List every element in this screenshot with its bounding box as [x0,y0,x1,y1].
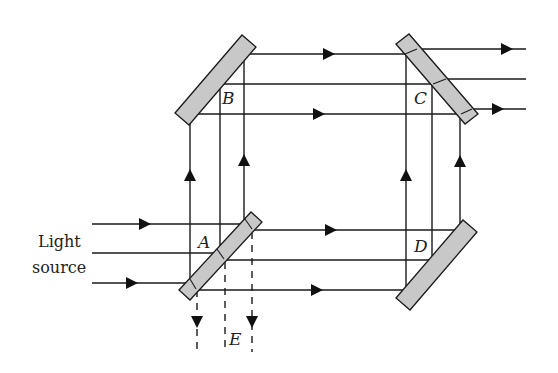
arrow-right-icon [126,277,138,289]
interferometer-diagram: Light source A B C D E [0,0,558,373]
light-source-label-line1: Light [38,232,81,251]
point-label-a: A [196,232,210,252]
light-source-label-line2: source [32,258,86,277]
arrow-up-icon [400,169,412,181]
arrow-right-icon [313,108,325,120]
arrow-right-icon [323,48,335,60]
arrow-down-icon [246,316,258,328]
point-label-e: E [228,329,242,349]
point-label-c: C [414,88,427,108]
arrow-down-icon [191,316,203,328]
arrow-right-icon [492,103,504,115]
arrow-right-icon [139,218,151,230]
point-label-d: D [413,236,428,256]
arrow-up-icon [238,154,250,166]
arrow-right-icon [501,43,513,55]
point-label-b: B [221,88,235,108]
mirror-d [396,220,477,310]
arrow-up-icon [184,169,196,181]
arrow-right-icon [311,284,323,296]
arrow-up-icon [454,155,466,167]
arrow-right-icon [325,224,337,236]
